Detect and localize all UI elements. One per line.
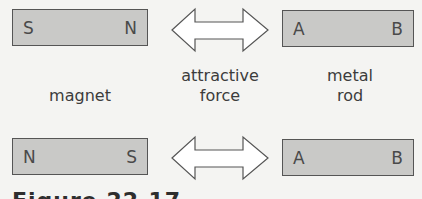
top-magnet-bar: S N	[12, 9, 148, 46]
bottom-magnet-right-pole: S	[126, 147, 137, 167]
top-double-arrow-icon	[170, 7, 270, 53]
top-rod-end-b: B	[391, 19, 403, 39]
metal-rod-label: metal rod	[305, 66, 395, 106]
bottom-metal-rod-bar: A B	[282, 139, 414, 176]
bottom-magnet-left-pole: N	[23, 147, 36, 167]
top-metal-rod-bar: A B	[282, 10, 414, 47]
figure-caption: Figure 22.17	[12, 188, 181, 199]
bottom-magnet-bar: N S	[12, 138, 148, 175]
bottom-rod-end-b: B	[391, 148, 403, 168]
top-magnet-left-pole: S	[23, 18, 34, 38]
bottom-rod-end-a: A	[293, 148, 305, 168]
bottom-double-arrow-icon	[170, 135, 270, 181]
magnet-label: magnet	[35, 86, 125, 106]
attractive-force-label: attractive force	[172, 66, 268, 106]
top-rod-end-a: A	[293, 19, 305, 39]
top-magnet-right-pole: N	[124, 18, 137, 38]
